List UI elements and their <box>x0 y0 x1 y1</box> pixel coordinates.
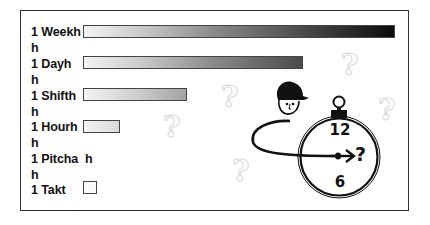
stopwatch-illustration <box>0 0 430 225</box>
clock-number-12: 12 <box>326 121 354 139</box>
person-with-cap-icon <box>277 82 309 114</box>
clock-question-mark: ? <box>355 145 366 164</box>
clock-number-6: 6 <box>330 173 350 191</box>
